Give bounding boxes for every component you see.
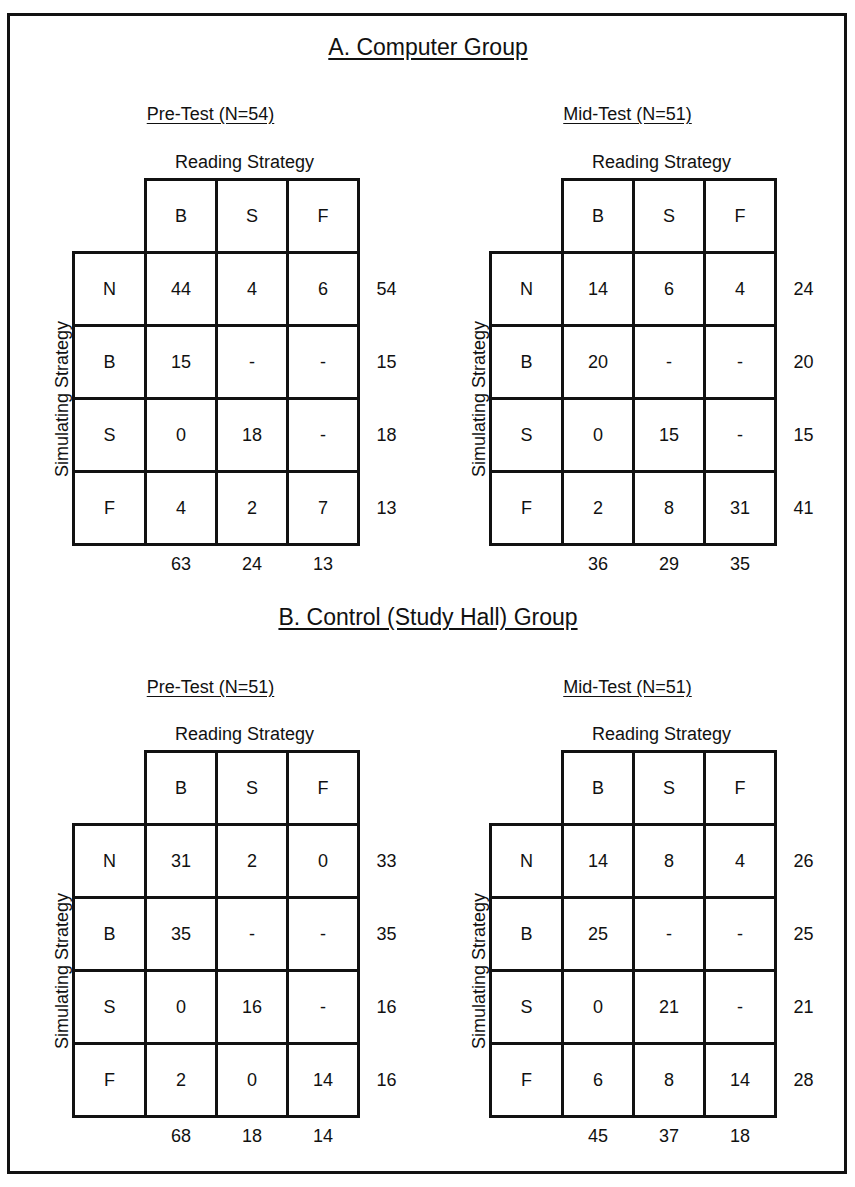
table-cell: 14	[703, 1042, 777, 1118]
table-cell: -	[215, 324, 289, 400]
row-header-control-group-mid-test: B	[489, 896, 564, 972]
col-total: 13	[286, 549, 360, 579]
table-cell: 31	[703, 470, 777, 546]
table-cell: 14	[561, 823, 635, 899]
col-total: 18	[703, 1121, 777, 1151]
row-header-computer-group-mid-test: S	[489, 397, 564, 473]
table-cell: 15	[144, 324, 218, 400]
table-cell: 0	[286, 823, 360, 899]
row-total: 54	[361, 251, 412, 327]
row-header-control-group-pre-test: B	[72, 896, 147, 972]
table-cell: 14	[561, 251, 635, 327]
table-cell: 0	[561, 969, 635, 1045]
section-title-control-group: B. Control (Study Hall) Group	[278, 604, 577, 631]
table-cell: -	[286, 969, 360, 1045]
col-total: 24	[215, 549, 289, 579]
row-header-computer-group-mid-test: B	[489, 324, 564, 400]
table-title-control-group-pre-test: Pre-Test (N=51)	[147, 677, 275, 698]
table-cell: 4	[144, 470, 218, 546]
row-header-control-group-pre-test: N	[72, 823, 147, 899]
col-total: 37	[632, 1121, 706, 1151]
table-cell: 4	[215, 251, 289, 327]
row-header-computer-group-mid-test: N	[489, 251, 564, 327]
table-cell: 0	[144, 969, 218, 1045]
row-total: 16	[361, 1042, 412, 1118]
table-cell: 8	[632, 470, 706, 546]
row-axis-label-control-group-pre-test: Simulating Strategy	[52, 893, 73, 1049]
row-axis-label-computer-group-pre-test: Simulating Strategy	[52, 321, 73, 477]
col-header-computer-group-pre-test: B	[144, 178, 218, 254]
table-cell: 7	[286, 470, 360, 546]
table-cell: 20	[561, 324, 635, 400]
row-header-computer-group-pre-test: S	[72, 397, 147, 473]
row-total: 16	[361, 969, 412, 1045]
table-cell: 8	[632, 823, 706, 899]
table-cell: 2	[144, 1042, 218, 1118]
col-total: 68	[144, 1121, 218, 1151]
table-cell: -	[703, 397, 777, 473]
table-cell: 44	[144, 251, 218, 327]
table-cell: 4	[703, 251, 777, 327]
table-cell: 6	[632, 251, 706, 327]
row-header-control-group-mid-test: N	[489, 823, 564, 899]
table-cell: 2	[215, 470, 289, 546]
table-cell: 6	[286, 251, 360, 327]
row-total: 35	[361, 896, 412, 972]
table-cell: -	[632, 324, 706, 400]
row-header-control-group-mid-test: S	[489, 969, 564, 1045]
row-header-computer-group-pre-test: N	[72, 251, 147, 327]
row-header-control-group-pre-test: F	[72, 1042, 147, 1118]
col-header-computer-group-pre-test: F	[286, 178, 360, 254]
row-total: 18	[361, 397, 412, 473]
row-total: 15	[778, 397, 829, 473]
col-total: 45	[561, 1121, 635, 1151]
table-cell: 14	[286, 1042, 360, 1118]
table-cell: -	[215, 896, 289, 972]
table-cell: 0	[561, 397, 635, 473]
table-cell: 0	[215, 1042, 289, 1118]
row-total: 28	[778, 1042, 829, 1118]
col-header-control-group-mid-test: B	[561, 750, 635, 826]
col-axis-label-control-group-pre-test: Reading Strategy	[175, 724, 314, 745]
row-total: 24	[778, 251, 829, 327]
col-header-computer-group-pre-test: S	[215, 178, 289, 254]
table-title-computer-group-mid-test: Mid-Test (N=51)	[563, 104, 692, 125]
row-total: 33	[361, 823, 412, 899]
table-cell: -	[286, 896, 360, 972]
table-cell: 18	[215, 397, 289, 473]
row-total: 41	[778, 470, 829, 546]
row-total: 21	[778, 969, 829, 1045]
section-title-computer-group: A. Computer Group	[328, 34, 527, 61]
col-header-computer-group-mid-test: F	[703, 178, 777, 254]
table-cell: 21	[632, 969, 706, 1045]
col-total: 35	[703, 549, 777, 579]
col-total: 63	[144, 549, 218, 579]
col-axis-label-computer-group-mid-test: Reading Strategy	[592, 152, 731, 173]
table-cell: 6	[561, 1042, 635, 1118]
table-cell: 0	[144, 397, 218, 473]
table-cell: 15	[632, 397, 706, 473]
col-header-control-group-mid-test: F	[703, 750, 777, 826]
col-header-control-group-mid-test: S	[632, 750, 706, 826]
row-total: 20	[778, 324, 829, 400]
col-total: 14	[286, 1121, 360, 1151]
table-cell: -	[703, 896, 777, 972]
table-cell: 2	[215, 823, 289, 899]
table-cell: -	[286, 324, 360, 400]
table-title-computer-group-pre-test: Pre-Test (N=54)	[147, 104, 275, 125]
col-header-computer-group-mid-test: S	[632, 178, 706, 254]
row-axis-label-control-group-mid-test: Simulating Strategy	[469, 893, 490, 1049]
col-axis-label-control-group-mid-test: Reading Strategy	[592, 724, 731, 745]
table-cell: 2	[561, 470, 635, 546]
col-total: 29	[632, 549, 706, 579]
col-header-control-group-pre-test: F	[286, 750, 360, 826]
row-header-control-group-pre-test: S	[72, 969, 147, 1045]
table-cell: -	[286, 397, 360, 473]
row-total: 15	[361, 324, 412, 400]
col-axis-label-computer-group-pre-test: Reading Strategy	[175, 152, 314, 173]
table-cell: 16	[215, 969, 289, 1045]
row-header-control-group-mid-test: F	[489, 1042, 564, 1118]
row-header-computer-group-pre-test: F	[72, 470, 147, 546]
col-header-control-group-pre-test: B	[144, 750, 218, 826]
table-cell: 25	[561, 896, 635, 972]
